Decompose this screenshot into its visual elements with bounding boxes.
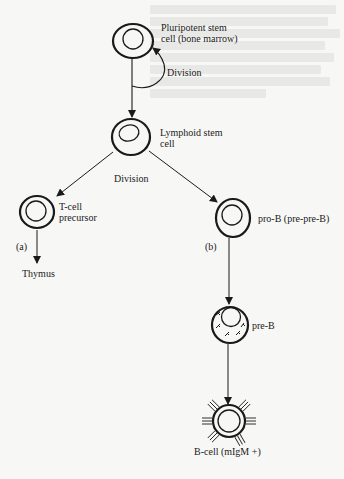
thymus-label: Thymus [22,268,55,279]
tcell-precursor-icon [20,196,54,228]
prob-cell-icon [216,199,250,237]
diagram-canvas: Pluripotent stem cell (bone marrow) Divi… [0,0,344,479]
pluripotent-label-line1: Pluripotent stem [161,22,238,33]
prob-label: pro-B (pre-pre-B) [258,213,329,224]
tcell-label-line2: precursor [59,212,97,223]
branch-a-label: (a) [16,241,27,252]
lymphoid-label-line1: Lymphoid stem [160,127,223,138]
preb-label: pre-B [252,320,275,331]
arrow-to-prob [149,151,217,202]
tcell-label: T-cell precursor [59,201,97,223]
self-division-label: Division [167,67,201,78]
bcell-label: B-cell (mIgM +) [194,446,261,457]
self-division-arrow [132,48,165,88]
lymphoid-label-line2: cell [160,138,223,149]
lymphoid-cell-icon [112,119,150,155]
lymphoid-label: Lymphoid stem cell [160,127,223,149]
tcell-label-line1: T-cell [59,201,97,212]
preb-cell-icon [212,307,248,343]
pluripotent-label-line2: cell (bone marrow) [161,33,238,44]
branch-b-label: (b) [205,241,217,252]
mIgM-receptor-icons [202,400,256,446]
pluripotent-label: Pluripotent stem cell (bone marrow) [161,22,238,44]
arrow-to-tcell [57,152,113,196]
lymphoid-division-label: Division [114,173,148,184]
pluripotent-cell-icon [113,24,153,58]
bcell-icon [202,400,256,446]
